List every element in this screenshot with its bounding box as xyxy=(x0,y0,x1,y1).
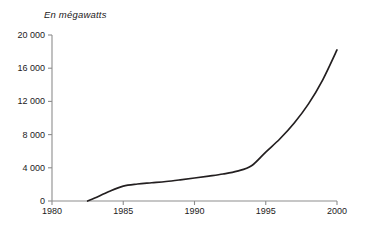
y-tick-label-text: 4 000 xyxy=(22,163,45,173)
y-tick-label: 8 000 xyxy=(0,130,45,140)
y-tick-label-text: 8 000 xyxy=(22,130,45,140)
x-tick-label: 1985 xyxy=(93,205,153,217)
x-tick-label-text: 1990 xyxy=(165,205,225,217)
x-tick-label-text: 2000 xyxy=(307,205,366,217)
x-tick-label-text: 1995 xyxy=(236,205,296,217)
y-tick-label: 12 000 xyxy=(0,96,45,106)
x-tick-label: 2000 xyxy=(307,205,366,217)
y-tick-label-text: 12 000 xyxy=(17,96,45,106)
series-line-puissance-installee xyxy=(88,50,337,201)
x-tick-label: 1990 xyxy=(165,205,225,217)
y-tick-label: 20 000 xyxy=(0,30,45,40)
chart-container: En mégawatts 04 0008 00012 00016 00020 0… xyxy=(0,0,366,238)
y-tick-label-text: 16 000 xyxy=(17,63,45,73)
y-tick-label-text: 20 000 xyxy=(17,30,45,40)
y-tick-label: 4 000 xyxy=(0,163,45,173)
x-tick-label: 1980 xyxy=(22,205,82,217)
y-tick-label: 16 000 xyxy=(0,63,45,73)
x-tick-label-text: 1985 xyxy=(93,205,153,217)
plot-area xyxy=(0,0,366,238)
x-tick-label-text: 1980 xyxy=(22,205,82,217)
x-tick-label: 1995 xyxy=(236,205,296,217)
y-tick-marks xyxy=(48,35,52,201)
